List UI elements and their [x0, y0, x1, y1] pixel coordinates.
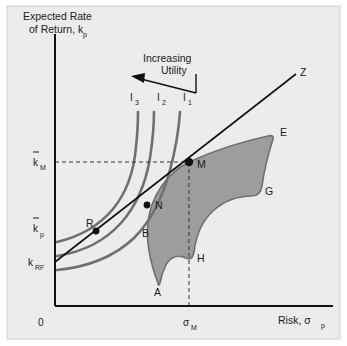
indifference-curve-label-I2: I	[157, 92, 160, 103]
indifference-curve-subscript-I1: 1	[188, 99, 192, 106]
point-label-N: N	[155, 199, 163, 211]
y-axis-title-subscript: p	[83, 31, 87, 39]
indifference-curve-label-I1: I	[183, 92, 186, 103]
point-label-M: M	[197, 158, 206, 170]
y-tick-k-hat-M-subscript: M	[40, 164, 46, 171]
y-axis-title-line2: of Return, k	[29, 23, 84, 35]
point-label-G: G	[265, 185, 273, 197]
point-label-E: E	[280, 126, 287, 138]
x-axis-title-subscript: p	[321, 322, 325, 330]
indifference-curve-subscript-I2: 2	[162, 99, 166, 106]
increasing-utility-label-line2: Utility	[161, 64, 187, 76]
indifference-curve-label-I3: I	[130, 92, 133, 103]
point-label-A: A	[154, 286, 161, 298]
diagram-canvas: Expected Rate of Return, k p Risk, σ p 0…	[0, 0, 347, 346]
y-axis-title-line1: Expected Rate	[23, 10, 92, 22]
x-tick-sigma-M-label: σ	[183, 317, 190, 328]
point-label-H: H	[197, 252, 205, 264]
point-label-R: R	[86, 217, 94, 229]
y-tick-k-hat-p-subscript: p	[40, 231, 44, 239]
point-R-marker	[93, 228, 100, 235]
efficient-frontier-figure: Expected Rate of Return, k p Risk, σ p 0…	[0, 0, 347, 346]
point-label-B: B	[142, 227, 149, 239]
x-axis-title: Risk, σ	[278, 314, 311, 326]
x-tick-sigma-M-subscript: M	[191, 324, 197, 331]
point-N-marker	[144, 202, 151, 209]
indifference-curve-subscript-I3: 3	[135, 99, 139, 106]
origin-label: 0	[38, 317, 44, 328]
increasing-utility-label-line1: Increasing	[143, 52, 192, 64]
point-label-Z: Z	[300, 66, 307, 78]
y-tick-k-RF-subscript: RF	[35, 264, 44, 271]
point-M-marker	[185, 158, 193, 166]
